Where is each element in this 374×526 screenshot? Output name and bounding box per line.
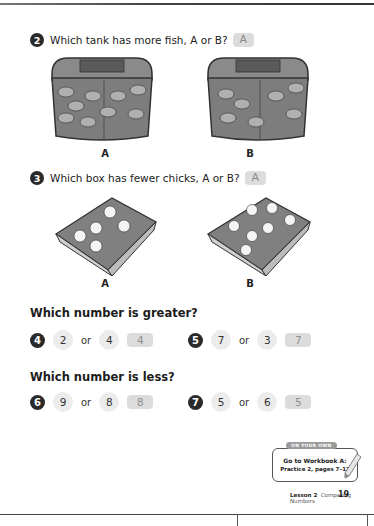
compare-item-4: 4 2 or 4 4: [30, 330, 153, 350]
or-text: or: [81, 397, 91, 408]
or-text: or: [81, 335, 91, 346]
fish-tank-b-image: [204, 52, 312, 144]
compare-item-5: 5 7 or 3 7: [188, 330, 311, 350]
figure-label-b: B: [240, 148, 260, 159]
question-text: Which box has fewer chicks, A or B?: [50, 172, 240, 184]
chick-box-a-image: [52, 194, 160, 276]
answer-box[interactable]: 7: [285, 333, 311, 347]
top-rule: [0, 3, 374, 5]
number-circle: 2: [53, 330, 73, 350]
compare-item-6: 6 9 or 8 8: [30, 392, 153, 412]
number-circle: 3: [257, 330, 277, 350]
chick-box-b-image: [204, 194, 314, 276]
question-number-badge: 3: [30, 171, 44, 185]
answer-box[interactable]: 8: [127, 395, 153, 409]
figure-label-a: A: [95, 148, 115, 159]
figure-label-b: B: [240, 278, 260, 289]
answer-box[interactable]: A: [233, 33, 255, 47]
question-2: 2 Which tank has more fish, A or B? A: [30, 33, 254, 47]
section-heading-greater: Which number is greater?: [30, 306, 198, 320]
number-circle: 7: [211, 330, 231, 350]
number-circle: 9: [53, 392, 73, 412]
pencil-icon: [343, 452, 363, 480]
question-number-badge: 6: [30, 395, 45, 410]
number-circle: 4: [99, 330, 119, 350]
answer-box[interactable]: A: [245, 171, 267, 185]
on-your-own-tab: ON YOUR OWN: [286, 442, 337, 449]
section-heading-less: Which number is less?: [30, 370, 175, 384]
bottom-box-edge: [367, 514, 368, 526]
question-number-badge: 4: [30, 333, 45, 348]
question-number-badge: 2: [30, 33, 44, 47]
answer-box[interactable]: 4: [127, 333, 153, 347]
page-footer: Lesson 2 Comparing Numbers: [290, 492, 374, 504]
question-number-badge: 5: [188, 333, 203, 348]
question-text: Which tank has more fish, A or B?: [50, 34, 228, 46]
number-circle: 5: [211, 392, 231, 412]
question-number-badge: 7: [188, 395, 203, 410]
page-number: 19: [338, 490, 349, 499]
bottom-box-edge: [237, 514, 238, 526]
fish-tank-a-image: [48, 52, 156, 144]
or-text: or: [239, 397, 249, 408]
number-circle: 8: [99, 392, 119, 412]
bottom-rule: [0, 514, 374, 515]
answer-box[interactable]: 5: [285, 395, 311, 409]
or-text: or: [239, 335, 249, 346]
question-3: 3 Which box has fewer chicks, A or B? A: [30, 171, 266, 185]
compare-item-7: 7 5 or 6 5: [188, 392, 311, 412]
figure-label-a: A: [95, 278, 115, 289]
number-circle: 6: [257, 392, 277, 412]
